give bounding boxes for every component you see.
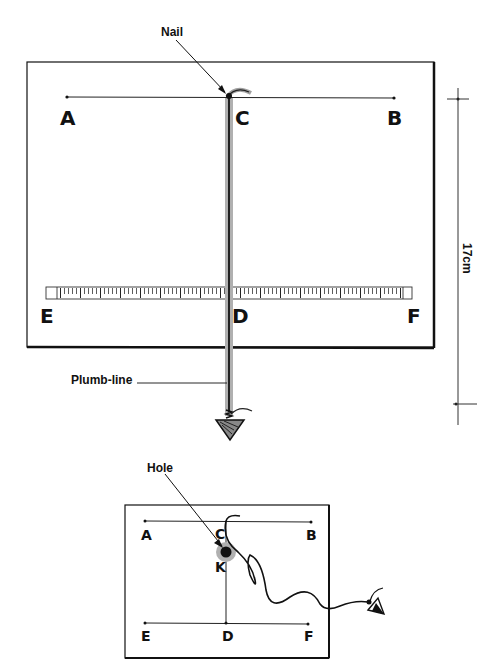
point-b [392, 96, 395, 99]
nail-label: Nail [161, 25, 183, 39]
top-figure: Nail Plumb-line A C B E D F 17cm [27, 25, 477, 440]
label-c-bottom: C [215, 526, 225, 542]
label-f: F [407, 304, 421, 328]
label-c: C [235, 106, 250, 130]
label-a-bottom: A [141, 527, 152, 543]
height-dimension: 17cm [447, 88, 477, 425]
nail-icon [226, 93, 232, 99]
hole-label: Hole [147, 461, 173, 475]
small-bob-icon [367, 588, 385, 614]
label-a: A [60, 106, 76, 130]
diagram-canvas: Nail Plumb-line A C B E D F 17cm [0, 0, 497, 668]
label-d: D [232, 304, 249, 328]
label-d-bottom: D [222, 628, 234, 644]
label-b: B [387, 106, 402, 130]
label-b-bottom: B [306, 527, 317, 543]
bottom-figure: Hole A C B K E D F [125, 461, 384, 658]
plumb-bob-icon [216, 409, 252, 440]
label-e-bottom: E [141, 628, 151, 644]
label-e: E [40, 304, 54, 328]
hole-icon [221, 547, 232, 558]
label-f-bottom: F [304, 628, 314, 644]
point-a [65, 95, 68, 98]
height-label: 17cm [460, 243, 474, 274]
label-k-bottom: K [215, 559, 227, 575]
plumb-line-label: Plumb-line [71, 373, 133, 387]
